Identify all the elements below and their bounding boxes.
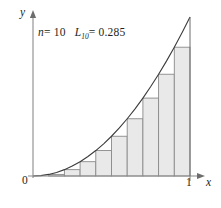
riemann-sum-figure: n= 10L10= 0.285 y x 0 1 bbox=[0, 0, 221, 208]
riemann-bar bbox=[159, 74, 175, 176]
y-axis-arrowhead bbox=[30, 10, 36, 18]
lower-sum-value: = 0.285 bbox=[89, 26, 126, 38]
riemann-bar bbox=[127, 119, 143, 176]
riemann-bar bbox=[143, 98, 159, 176]
riemann-bars bbox=[49, 47, 190, 176]
riemann-bar bbox=[96, 151, 112, 176]
x-axis-label: x bbox=[206, 176, 211, 188]
riemann-bar bbox=[80, 162, 96, 176]
riemann-bar bbox=[112, 136, 128, 176]
riemann-annotation: n= 10L10= 0.285 bbox=[38, 26, 125, 41]
x-axis-arrowhead bbox=[197, 173, 205, 179]
origin-label: 0 bbox=[22, 174, 28, 186]
n-value: = 10 bbox=[44, 26, 66, 38]
lower-sum-subscript: 10 bbox=[81, 32, 89, 41]
riemann-bar bbox=[64, 170, 80, 176]
x-tick-label-1: 1 bbox=[186, 176, 192, 188]
y-axis-label: y bbox=[20, 6, 25, 18]
riemann-bar bbox=[174, 47, 190, 176]
